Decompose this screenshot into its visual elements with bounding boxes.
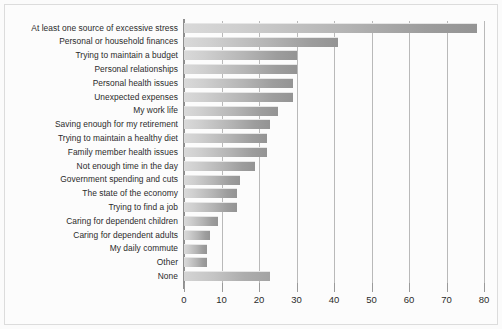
category-label: Trying to maintain a healthy diet [58,134,178,142]
category-label-row: Not enough time in the day [6,159,182,173]
bar-row [184,104,484,118]
category-label-row: Trying to maintain a budget [6,49,182,63]
x-tick-30 [297,283,298,292]
category-label-row: The state of the economy [6,187,182,201]
category-label-row: My work life [6,104,182,118]
category-label: Government spending and cuts [60,175,178,183]
chart-screenshot: At least one source of excessive stressP… [0,0,502,329]
category-label: None [158,272,178,280]
bar-row [184,76,484,90]
category-label-row: Government spending and cuts [6,173,182,187]
bar-row [184,187,484,201]
bar [184,244,207,254]
category-label-row: Trying to find a job [6,200,182,214]
category-label-row: Family member health issues [6,145,182,159]
bar-row [184,173,484,187]
category-label-row: Other [6,256,182,270]
bar [184,161,255,171]
bar [184,230,210,240]
category-label-row: Unexpected expenses [6,90,182,104]
category-label: Trying to maintain a budget [75,51,178,59]
bar [184,133,267,143]
x-tick-70 [447,283,448,292]
category-label-row: Caring for dependent children [6,214,182,228]
bar-row [184,242,484,256]
category-label-row: Trying to maintain a healthy diet [6,131,182,145]
category-label-row: At least one source of excessive stress [6,21,182,35]
bar-row [184,35,484,49]
category-label: The state of the economy [82,189,178,197]
x-tick-label: 80 [479,295,490,305]
bar-row [184,62,484,76]
gridline-80 [484,21,485,283]
bar-row [184,49,484,63]
bar-row [184,256,484,270]
category-label: At least one source of excessive stress [31,24,178,32]
x-tick-label: 40 [329,295,340,305]
x-tick-label: 20 [254,295,265,305]
category-label: Saving enough for my retirement [55,120,178,128]
x-tick-60 [409,283,410,292]
category-label: Caring for dependent adults [73,231,178,239]
bar [184,78,293,88]
bar-row [184,118,484,132]
x-tick-label: 30 [291,295,302,305]
bar [184,188,237,198]
plot-area [184,21,484,283]
bar-row [184,131,484,145]
bar-row [184,21,484,35]
category-label: Personal health issues [93,79,178,87]
x-tick-0 [184,283,185,292]
category-label: Unexpected expenses [94,93,178,101]
bar-series [184,21,484,283]
category-label-column: At least one source of excessive stressP… [6,21,182,283]
category-label: Not enough time in the day [77,162,178,170]
x-tick-10 [222,283,223,292]
category-label-row: Personal health issues [6,76,182,90]
bar [184,37,338,47]
category-label-row: My daily commute [6,242,182,256]
x-axis-tick-labels: 01020304050607080 [184,295,484,311]
horizontal-bar-chart: At least one source of excessive stressP… [0,0,502,329]
bar [184,175,240,185]
x-tick-50 [372,283,373,292]
bar [184,50,297,60]
bar [184,119,270,129]
bar-row [184,159,484,173]
bar-row [184,269,484,283]
bar [184,147,267,157]
category-label: Personal or household finances [59,37,178,45]
bar [184,216,218,226]
category-label: My daily commute [110,244,178,252]
category-label-row: Caring for dependent adults [6,228,182,242]
bar [184,202,237,212]
x-tick-label: 50 [366,295,377,305]
bar-row [184,200,484,214]
x-tick-label: 10 [216,295,227,305]
bar [184,23,477,33]
category-label-row: Personal or household finances [6,35,182,49]
category-label-row: Personal relationships [6,62,182,76]
category-label: Personal relationships [94,65,178,73]
x-tick-label: 60 [404,295,415,305]
bar [184,271,270,281]
category-label-row: Saving enough for my retirement [6,118,182,132]
x-tick-label: 70 [441,295,452,305]
bar [184,257,207,267]
x-tick-20 [259,283,260,292]
x-tick-label: 0 [181,295,186,305]
bar-row [184,228,484,242]
category-label: Family member health issues [68,148,178,156]
bar-row [184,214,484,228]
x-tick-40 [334,283,335,292]
category-label: Caring for dependent children [66,217,178,225]
bar [184,106,278,116]
category-label: Trying to find a job [108,203,178,211]
bar [184,92,293,102]
x-tick-80 [484,283,485,292]
bar-row [184,90,484,104]
category-label-row: None [6,269,182,283]
category-label: Other [157,258,178,266]
bar-row [184,145,484,159]
category-label: My work life [133,106,178,114]
